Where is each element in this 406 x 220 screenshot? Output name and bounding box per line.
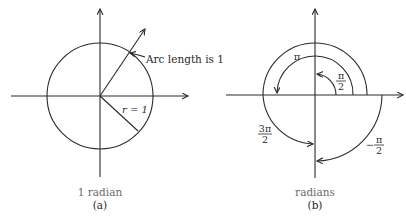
arc-3pi-over-2 (263, 95, 313, 144)
arc-neg-pi-over-2 (317, 95, 382, 161)
diagram-b: π π 2 3π 2 − π 2 radians (b) (226, 9, 403, 211)
arc-length-label: Arc length is 1 (145, 53, 224, 65)
caption-a: 1 radian (78, 186, 123, 198)
label-pi-over-2: π 2 (336, 70, 346, 92)
svg-text:π: π (338, 70, 344, 81)
label-neg-pi-over-2: − π 2 (366, 134, 384, 156)
svg-text:3π: 3π (259, 123, 271, 134)
svg-text:2: 2 (376, 145, 382, 156)
arc-pi-over-2 (317, 74, 336, 95)
svg-text:π: π (376, 134, 382, 145)
arc-pointer-arrow (130, 53, 145, 57)
diagram-a: Arc length is 1 r = 1 1 radian (a) (11, 9, 224, 211)
radius-label: r = 1 (122, 104, 148, 115)
svg-text:2: 2 (338, 81, 344, 92)
caption-b: radians (295, 186, 335, 198)
label-3pi-over-2: 3π 2 (258, 123, 272, 145)
svg-text:−: − (366, 139, 374, 150)
radian-diagrams: Arc length is 1 r = 1 1 radian (a) π π 2… (0, 0, 406, 220)
sublabel-a: (a) (93, 199, 107, 211)
sublabel-b: (b) (308, 199, 323, 211)
label-pi: π (294, 51, 301, 62)
svg-text:2: 2 (262, 134, 268, 145)
angle-ray-arrow (100, 29, 145, 96)
